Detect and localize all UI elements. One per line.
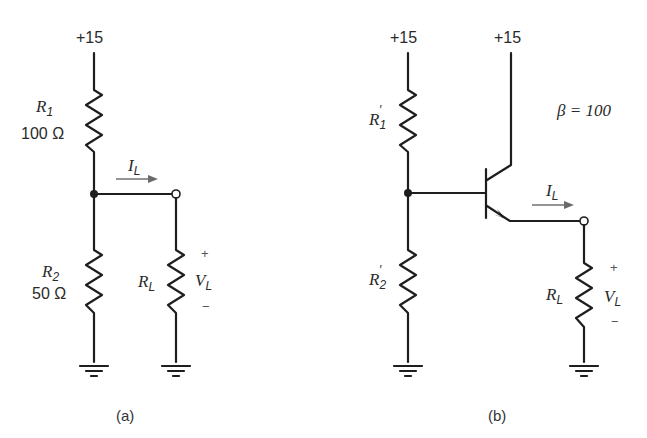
caption-b: (b) bbox=[488, 407, 506, 424]
r2-prime-label: R2′ bbox=[368, 263, 386, 292]
r1-prime-resistor bbox=[400, 53, 416, 362]
circuit-a: +15 IL R1 100 Ω R2 50 Ω RL + VL − (a) bbox=[21, 29, 212, 424]
r1-value: 100 Ω bbox=[21, 125, 64, 142]
r2-label: R2 bbox=[41, 262, 59, 284]
r1-prime-label: R1′ bbox=[368, 103, 386, 132]
beta-label: β = 100 bbox=[556, 101, 611, 120]
arrow-head-icon bbox=[148, 175, 158, 183]
npn-transistor-icon bbox=[486, 53, 580, 221]
supply-label-b-collector: +15 bbox=[494, 29, 521, 46]
arrow-head-icon bbox=[564, 201, 574, 209]
r1-label: R1 bbox=[35, 97, 53, 119]
ground-icon bbox=[394, 366, 422, 376]
supply-label-b-bias: +15 bbox=[390, 29, 417, 46]
circuit-b: +15 +15 IL β = 100 R1′ R2′ bbox=[368, 29, 621, 424]
rl-resistor-a bbox=[168, 198, 184, 362]
vl-minus-a: − bbox=[202, 299, 210, 314]
rl-label-a: RL bbox=[137, 272, 155, 294]
current-label-a: IL bbox=[127, 156, 140, 178]
supply-label-a: +15 bbox=[76, 29, 103, 46]
r2-value: 50 Ω bbox=[32, 285, 66, 302]
caption-a: (a) bbox=[116, 407, 134, 424]
vl-label-b: VL bbox=[604, 287, 621, 309]
rl-label-b: RL bbox=[545, 285, 563, 307]
output-terminal-b bbox=[580, 217, 588, 225]
rl-resistor-b bbox=[576, 225, 592, 362]
ground-icon bbox=[80, 366, 108, 376]
vl-plus-b: + bbox=[610, 260, 618, 275]
circuit-figure: +15 IL R1 100 Ω R2 50 Ω RL + VL − (a) bbox=[0, 0, 647, 438]
vl-label-a: VL bbox=[195, 271, 212, 293]
ground-icon bbox=[570, 366, 598, 376]
r1-resistor bbox=[86, 53, 102, 362]
ground-icon bbox=[162, 366, 190, 376]
output-terminal-a bbox=[172, 190, 180, 198]
current-label-b: IL bbox=[545, 181, 558, 203]
vl-minus-b: − bbox=[611, 314, 619, 329]
vl-plus-a: + bbox=[201, 246, 209, 261]
